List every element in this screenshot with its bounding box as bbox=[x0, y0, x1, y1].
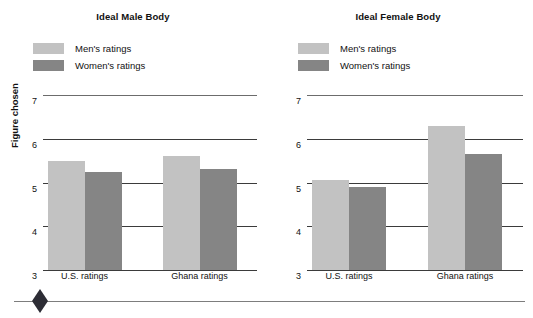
bar bbox=[200, 169, 237, 270]
x-tick-label: U.S. ratings bbox=[298, 271, 400, 281]
y-tick-label: 6 bbox=[32, 140, 46, 150]
legend-label-mens: Men's ratings bbox=[340, 43, 396, 54]
footer-rule bbox=[14, 301, 525, 302]
panel-ideal-female-body: Ideal Female Body Men's ratings Women's … bbox=[265, 0, 531, 285]
bar bbox=[312, 180, 349, 270]
legend-swatch-womens bbox=[33, 60, 64, 71]
y-tick-label: 4 bbox=[296, 227, 310, 237]
panel-ideal-male-body: Ideal Male Body Men's ratings Women's ra… bbox=[0, 0, 266, 285]
y-tick-label: 5 bbox=[32, 184, 46, 194]
legend: Men's ratings Women's ratings bbox=[298, 40, 410, 74]
y-tick-label: 7 bbox=[296, 96, 310, 106]
legend-label-womens: Women's ratings bbox=[340, 60, 410, 71]
y-tick-label: 7 bbox=[32, 96, 46, 106]
bar bbox=[428, 126, 465, 270]
legend-item-womens-ratings: Women's ratings bbox=[33, 57, 145, 74]
panel-title: Ideal Female Body bbox=[265, 11, 531, 22]
x-tick-label: U.S. ratings bbox=[34, 271, 136, 281]
bar bbox=[48, 161, 85, 270]
legend-item-womens-ratings: Women's ratings bbox=[298, 57, 410, 74]
bar bbox=[349, 187, 386, 270]
x-tick-label: Ghana ratings bbox=[149, 271, 251, 281]
bar bbox=[85, 172, 122, 270]
plot-area: 76543U.S. ratingsGhana ratings bbox=[43, 95, 257, 270]
panel-title: Ideal Male Body bbox=[0, 11, 266, 22]
legend-swatch-womens bbox=[298, 60, 329, 71]
y-tick-label: 4 bbox=[32, 227, 46, 237]
gridline-6 bbox=[43, 139, 257, 140]
legend-item-mens-ratings: Men's ratings bbox=[298, 40, 410, 57]
legend: Men's ratings Women's ratings bbox=[33, 40, 145, 74]
legend-label-mens: Men's ratings bbox=[75, 43, 131, 54]
figure-container: Ideal Male Body Men's ratings Women's ra… bbox=[0, 0, 533, 318]
bar bbox=[465, 154, 502, 270]
gridline-7 bbox=[307, 95, 523, 96]
x-tick-label: Ghana ratings bbox=[414, 271, 516, 281]
legend-swatch-mens bbox=[33, 43, 64, 54]
y-tick-label: 5 bbox=[296, 184, 310, 194]
diamond-marker-icon bbox=[32, 289, 48, 301]
gridline-7 bbox=[43, 95, 257, 96]
y-axis-label: Figure chosen bbox=[9, 83, 20, 148]
y-tick-label: 6 bbox=[296, 140, 310, 150]
plot-area: 76543U.S. ratingsGhana ratings bbox=[307, 95, 523, 270]
legend-label-womens: Women's ratings bbox=[75, 60, 145, 71]
gridline-6 bbox=[307, 139, 523, 140]
bar bbox=[163, 156, 200, 270]
legend-swatch-mens bbox=[298, 43, 329, 54]
legend-item-mens-ratings: Men's ratings bbox=[33, 40, 145, 57]
